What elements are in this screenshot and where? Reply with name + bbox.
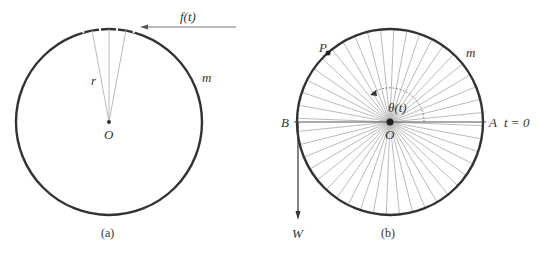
spoke <box>390 122 447 194</box>
time-label: t = 0 <box>504 115 530 130</box>
figure-a: f(t) r m O (a) <box>16 9 236 240</box>
force-label: f(t) <box>180 9 196 24</box>
weight-label: W <box>292 226 304 241</box>
spoke <box>390 122 482 126</box>
arrowhead-icon <box>140 25 148 30</box>
center-label-a: O <box>104 127 114 142</box>
center-label-b: O <box>385 127 395 142</box>
arrowhead-icon <box>296 211 301 220</box>
point-label: P <box>318 40 327 55</box>
mass-label-b: m <box>466 45 475 60</box>
spoke <box>323 59 390 122</box>
mass-label-a: m <box>202 70 211 85</box>
caption-a: (a) <box>101 226 114 240</box>
radius-label: r <box>91 73 97 88</box>
caption-b: (b) <box>381 226 395 240</box>
spoke <box>390 122 457 185</box>
center-point-a <box>107 120 111 124</box>
right-label: A <box>488 115 497 130</box>
spoke <box>390 122 481 139</box>
spoke <box>298 118 390 122</box>
spoke <box>300 105 391 122</box>
spoke <box>355 37 390 122</box>
spoke <box>305 122 390 157</box>
spoke <box>318 122 390 179</box>
spoke <box>333 50 390 122</box>
figure-b: θ(t) O P m B A t = 0 W (b) <box>281 29 530 241</box>
arrowhead-icon <box>370 90 377 96</box>
diagram-canvas: f(t) r m O (a) θ(t) O P m B A t = 0 W (b… <box>0 0 539 256</box>
spoke <box>303 93 390 122</box>
center-point-b <box>387 119 394 126</box>
spoke <box>390 122 477 151</box>
angle-label: θ(t) <box>388 100 407 115</box>
left-label: B <box>281 115 289 130</box>
spoke <box>390 122 425 207</box>
radius-line <box>109 30 126 122</box>
spoke <box>327 122 390 189</box>
